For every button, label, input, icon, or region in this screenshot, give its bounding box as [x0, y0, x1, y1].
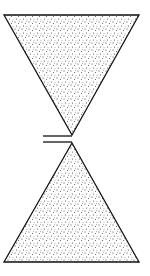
- bottom-triangle: [4, 143, 139, 262]
- top-inverted-triangle: [4, 15, 139, 135]
- hourglass-diagram: [0, 0, 150, 276]
